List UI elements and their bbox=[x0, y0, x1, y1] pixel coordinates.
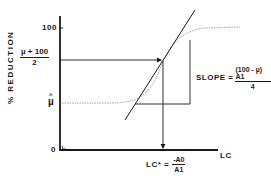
lc-star-fraction: -A0 A1 bbox=[172, 156, 185, 173]
slope-fraction: (100 - µ) A1 4 bbox=[235, 66, 271, 90]
y-tick-label-0: 0 bbox=[51, 146, 56, 154]
slope-annotation: SLOPE = (100 - µ) A1 4 bbox=[196, 66, 271, 90]
midlevel-denominator: 2 bbox=[32, 58, 36, 67]
tangent-line bbox=[125, 10, 195, 120]
y-tick-label-100: 100 bbox=[42, 24, 57, 32]
lc-star-prefix: LC* = bbox=[146, 161, 169, 169]
midlevel-label: µ + 100 2 bbox=[20, 48, 49, 67]
y-axis-label: % REDUCTION bbox=[6, 31, 15, 104]
lc-star-denominator: A1 bbox=[174, 165, 183, 173]
slope-denominator: 4 bbox=[251, 82, 255, 90]
x-axis-label: LC bbox=[220, 152, 232, 160]
midlevel-numerator: µ + 100 bbox=[20, 48, 49, 58]
slope-numerator: (100 - µ) A1 bbox=[235, 66, 271, 82]
origin-tick bbox=[62, 146, 66, 149]
dose-response-curve bbox=[62, 27, 240, 103]
lc-star-annotation: LC* = -A0 A1 bbox=[146, 156, 185, 173]
slope-prefix: SLOPE = bbox=[196, 74, 234, 82]
mu-hat-label: µ bbox=[48, 97, 54, 107]
lc-star-numerator: -A0 bbox=[172, 156, 185, 165]
mu-hat-symbol: µ bbox=[48, 97, 54, 107]
